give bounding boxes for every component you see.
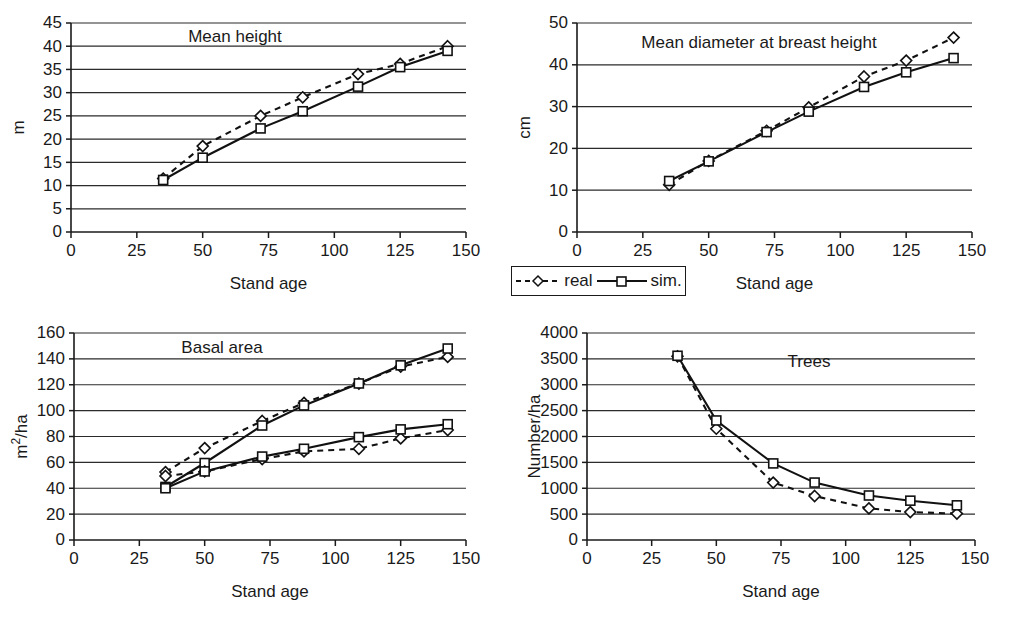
data-point-marker-diamond (948, 32, 959, 43)
data-point-marker-square (769, 459, 778, 468)
x-axis-tick-label: 75 (259, 241, 278, 260)
x-axis-tick-label: 100 (831, 549, 859, 568)
data-point-marker-square (256, 124, 265, 133)
x-axis-tick-label: 50 (193, 241, 212, 260)
chart-title: Mean diameter at breast height (641, 33, 877, 52)
y-axis-tick-label: 40 (549, 55, 568, 74)
y-axis-tick-label: 160 (37, 323, 65, 342)
data-point-marker-diamond (905, 507, 916, 518)
x-axis-tick-label: 150 (958, 241, 986, 260)
legend-label-real: real (564, 271, 592, 291)
y-axis-title: Number/ha (525, 394, 544, 479)
chart-panel-basal-area: 0204060801001201401600255075100125150Sta… (0, 307, 509, 617)
data-point-marker-square (258, 421, 267, 430)
data-point-marker-square (396, 361, 405, 370)
x-axis-tick-label: 75 (261, 549, 280, 568)
legend-label-sim: sim. (651, 271, 682, 291)
data-point-marker-square (299, 444, 308, 453)
data-point-marker-diamond (809, 491, 820, 502)
y-axis-tick-label: 30 (43, 83, 62, 102)
y-axis-tick-label: 4000 (540, 323, 578, 342)
x-axis-tick-label: 125 (892, 241, 920, 260)
data-point-marker-square (902, 68, 911, 77)
data-point-marker-square (258, 452, 267, 461)
data-point-marker-diamond (297, 92, 308, 103)
data-point-marker-square (354, 433, 363, 442)
y-axis-title: m2/ha (9, 414, 31, 459)
x-axis-title: Stand age (230, 274, 308, 293)
legend-swatch-sim (596, 273, 648, 289)
x-axis-tick-label: 150 (452, 549, 480, 568)
chart-svg-basal-area: 0204060801001201401600255075100125150Sta… (0, 307, 509, 617)
y-axis-tick-label: 500 (550, 505, 578, 524)
x-axis-tick-label: 100 (321, 549, 349, 568)
chart-panel-trees: 0500100015002000250030003500400002550751… (509, 307, 1018, 617)
y-axis-title: cm (515, 116, 534, 139)
data-point-marker-square (161, 484, 170, 493)
chart-title: Basal area (181, 338, 263, 357)
x-axis-tick-label: 75 (772, 549, 791, 568)
x-axis-tick-label: 50 (195, 549, 214, 568)
data-point-marker-square (704, 157, 713, 166)
y-axis-tick-label: 120 (37, 375, 65, 394)
y-axis-tick-label: 5 (53, 199, 62, 218)
x-axis-tick-label: 0 (582, 549, 591, 568)
x-axis-tick-label: 0 (69, 549, 78, 568)
x-axis-tick-label: 125 (386, 549, 414, 568)
x-axis-tick-label: 125 (896, 549, 924, 568)
data-point-marker-square (762, 128, 771, 137)
data-point-marker-square (200, 467, 209, 476)
y-axis-tick-label: 60 (46, 453, 65, 472)
legend-swatch-real (515, 273, 561, 289)
chart-svg-mean-dbh: 010203040500255075100125150Stand agecmMe… (509, 0, 1018, 310)
x-axis-tick-label: 50 (707, 549, 726, 568)
series-line-real (678, 356, 957, 513)
data-point-marker-square (665, 177, 674, 186)
data-point-marker-square (299, 401, 308, 410)
x-axis-tick-label: 75 (765, 241, 784, 260)
data-point-marker-square (712, 416, 721, 425)
y-axis-tick-label: 2000 (540, 427, 578, 446)
data-point-marker-square (443, 344, 452, 353)
data-point-marker-diamond (255, 110, 266, 121)
data-point-marker-diamond (353, 69, 364, 80)
y-axis-tick-label: 40 (43, 37, 62, 56)
y-axis-tick-label: 40 (46, 479, 65, 498)
y-axis-tick-label: 30 (549, 97, 568, 116)
x-axis-tick-label: 25 (127, 241, 146, 260)
chart-title: Trees (788, 352, 831, 371)
y-axis-tick-label: 15 (43, 153, 62, 172)
x-axis-tick-label: 100 (320, 241, 348, 260)
y-axis-tick-label: 1000 (540, 479, 578, 498)
data-point-marker-square (864, 491, 873, 500)
data-point-marker-square (198, 153, 207, 162)
y-axis-tick-label: 100 (37, 401, 65, 420)
y-axis-tick-label: 0 (53, 222, 62, 241)
data-point-marker-square (860, 82, 869, 91)
y-axis-tick-label: 1500 (540, 453, 578, 472)
data-point-marker-diamond (353, 443, 364, 454)
y-axis-tick-label: 20 (46, 505, 65, 524)
y-axis-tick-label: 45 (43, 13, 62, 32)
y-axis-tick-label: 0 (56, 530, 65, 549)
y-axis-tick-label: 3500 (540, 349, 578, 368)
data-point-marker-square (810, 478, 819, 487)
x-axis-tick-label: 150 (452, 241, 480, 260)
x-axis-tick-label: 150 (961, 549, 989, 568)
x-axis-tick-label: 0 (572, 241, 581, 260)
data-point-marker-square (354, 379, 363, 388)
y-axis-tick-label: 10 (43, 176, 62, 195)
chart-svg-mean-height: 0510152025303540450255075100125150Stand … (0, 0, 509, 310)
x-axis-tick-label: 50 (699, 241, 718, 260)
data-point-marker-square (673, 351, 682, 360)
x-axis-title: Stand age (231, 582, 309, 601)
data-point-marker-square (952, 501, 961, 510)
x-axis-tick-label: 125 (386, 241, 414, 260)
data-point-marker-diamond (863, 503, 874, 514)
y-axis-tick-label: 0 (569, 530, 578, 549)
data-point-marker-square (159, 175, 168, 184)
y-axis-tick-label: 80 (46, 427, 65, 446)
x-axis-tick-label: 25 (130, 549, 149, 568)
chart-panel-mean-diameter-breast-height: 010203040500255075100125150Stand agecmMe… (509, 0, 1018, 310)
x-axis-tick-label: 100 (826, 241, 854, 260)
